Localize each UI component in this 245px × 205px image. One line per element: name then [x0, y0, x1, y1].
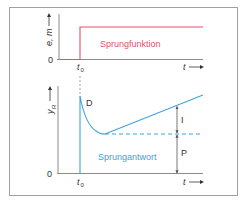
i-label: I — [181, 115, 184, 125]
bottom-zero-label: 0 — [47, 169, 52, 179]
step-response-label: Sprungantwort — [98, 152, 157, 162]
pid-step-response-diagram: e, m 0 Sprungfunktion t 0 t y R 0 — [0, 0, 245, 205]
d-label: D — [86, 98, 93, 108]
p-label: P — [181, 148, 187, 158]
top-zero-label: 0 — [48, 55, 53, 65]
svg-text:e, m: e, m — [44, 28, 54, 46]
step-function-label: Sprungfunktion — [100, 39, 161, 49]
svg-text:R: R — [51, 104, 57, 109]
